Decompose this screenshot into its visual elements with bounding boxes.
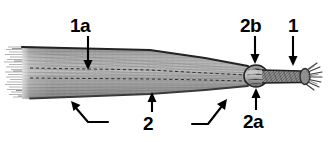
- pointer-2b: [251, 36, 260, 64]
- label-2: 2: [143, 114, 153, 133]
- pointer-2: [148, 92, 157, 112]
- brush-tip: [300, 63, 322, 90]
- label-2b: 2b: [240, 16, 261, 35]
- figure-container: 1a 2 2b 1 2a: [0, 0, 335, 142]
- pointer-2a: [252, 88, 261, 110]
- leader-center: [192, 99, 227, 124]
- narrow-stem: [262, 70, 303, 84]
- pointer-1: [289, 36, 298, 66]
- label-1: 1: [288, 16, 298, 35]
- specimen-illustration: [0, 0, 335, 142]
- leader-left: [71, 101, 108, 122]
- tapering-shaft: [18, 44, 250, 102]
- label-2a: 2a: [243, 112, 263, 131]
- label-1a: 1a: [70, 16, 90, 35]
